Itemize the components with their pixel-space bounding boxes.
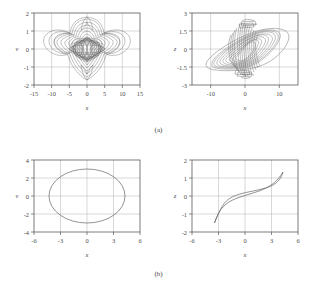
svg-text:3: 3 xyxy=(270,237,273,244)
svg-text:0: 0 xyxy=(184,46,187,53)
svg-text:0: 0 xyxy=(243,90,246,97)
svg-text:-6: -6 xyxy=(31,237,36,244)
plot-b-right: -6 -3 0 3 6 2 1 0 -1 -2 x z xyxy=(158,147,317,273)
caption-a: (a) xyxy=(0,126,317,134)
svg-text:10: 10 xyxy=(119,90,125,97)
svg-text:-10: -10 xyxy=(206,90,215,97)
svg-text:1.5: 1.5 xyxy=(179,28,187,35)
xtick-labels-b-left: -6 -3 0 3 6 xyxy=(31,237,141,244)
data-curve-b-right xyxy=(215,172,284,223)
xaxis-label-b-left: x xyxy=(85,251,89,258)
svg-text:1: 1 xyxy=(26,28,29,35)
ytick-labels-a-right: 3 1.5 0 -1.5 -3 xyxy=(177,10,187,89)
svg-text:5: 5 xyxy=(103,90,106,97)
svg-text:2: 2 xyxy=(26,175,29,182)
figure-container: -15 -10 -5 0 5 10 15 2 1 0 -1 -2 x xyxy=(0,0,317,294)
ytick-labels-b-right: 2 1 0 -1 -2 xyxy=(182,157,187,236)
gridlines-b-left xyxy=(34,160,140,232)
svg-text:-3: -3 xyxy=(216,237,221,244)
svg-text:-1: -1 xyxy=(24,64,29,71)
svg-text:15: 15 xyxy=(137,90,143,97)
panel-b-left: -6 -3 0 3 6 4 2 0 -2 -4 x v xyxy=(0,147,158,273)
figure-row-b: -6 -3 0 3 6 4 2 0 -2 -4 x v xyxy=(0,147,317,294)
plot-a-left: -15 -10 -5 0 5 10 15 2 1 0 -1 -2 x xyxy=(0,0,158,126)
svg-text:-2: -2 xyxy=(182,229,187,236)
xtick-labels-a-right: -10 0 10 xyxy=(206,90,282,97)
caption-b: (b) xyxy=(0,270,317,278)
svg-text:-15: -15 xyxy=(30,90,39,97)
plot-b-left: -6 -3 0 3 6 4 2 0 -2 -4 x v xyxy=(0,147,158,273)
svg-text:10: 10 xyxy=(276,90,282,97)
svg-text:1: 1 xyxy=(184,175,187,182)
svg-text:-10: -10 xyxy=(47,90,56,97)
svg-text:-3: -3 xyxy=(58,237,63,244)
svg-text:4: 4 xyxy=(26,157,30,164)
yaxis-label-b-right: z xyxy=(173,192,177,199)
panel-a-right: -10 0 10 3 1.5 0 -1.5 -3 x z xyxy=(158,0,317,126)
panel-a-left: -15 -10 -5 0 5 10 15 2 1 0 -1 -2 x xyxy=(0,0,158,126)
svg-text:-6: -6 xyxy=(189,237,194,244)
ytick-labels-a-left: 2 1 0 -1 -2 xyxy=(24,10,29,89)
ytick-labels-b-left: 4 2 0 -2 -4 xyxy=(24,157,30,236)
svg-text:0: 0 xyxy=(85,90,88,97)
yaxis-label-a-left: v xyxy=(16,45,19,52)
yaxis-label-b-left: v xyxy=(16,192,19,199)
figure-row-a: -15 -10 -5 0 5 10 15 2 1 0 -1 -2 x xyxy=(0,0,317,147)
ticks-b-left xyxy=(31,160,140,235)
svg-text:0: 0 xyxy=(184,193,187,200)
svg-text:3: 3 xyxy=(112,237,115,244)
svg-text:3: 3 xyxy=(184,10,187,17)
svg-text:2: 2 xyxy=(184,157,187,164)
ticks-a-left xyxy=(31,13,140,88)
svg-text:6: 6 xyxy=(296,237,299,244)
gridlines-b-right xyxy=(192,160,298,232)
xaxis-label-b-right: x xyxy=(243,251,247,258)
plot-a-right: -10 0 10 3 1.5 0 -1.5 -3 x z xyxy=(158,0,317,126)
panel-b-right: -6 -3 0 3 6 2 1 0 -1 -2 x z xyxy=(158,147,317,273)
xtick-labels-a-left: -15 -10 -5 0 5 10 15 xyxy=(30,90,143,97)
svg-text:0: 0 xyxy=(26,46,29,53)
svg-text:-3: -3 xyxy=(182,82,187,89)
svg-text:0: 0 xyxy=(26,193,29,200)
xtick-labels-b-right: -6 -3 0 3 6 xyxy=(189,237,299,244)
svg-text:-1.5: -1.5 xyxy=(177,64,187,71)
svg-text:-4: -4 xyxy=(24,229,30,236)
svg-text:0: 0 xyxy=(243,237,246,244)
svg-text:-1: -1 xyxy=(182,211,187,218)
svg-text:-2: -2 xyxy=(24,211,29,218)
svg-text:-2: -2 xyxy=(24,82,29,89)
xaxis-label-a-right: x xyxy=(243,104,247,111)
xaxis-label-a-left: x xyxy=(85,104,89,111)
yaxis-label-a-right: z xyxy=(173,45,177,52)
ticks-b-right xyxy=(189,160,298,235)
svg-text:-5: -5 xyxy=(67,90,72,97)
svg-text:0: 0 xyxy=(85,237,88,244)
svg-text:2: 2 xyxy=(26,10,29,17)
svg-text:6: 6 xyxy=(138,237,141,244)
